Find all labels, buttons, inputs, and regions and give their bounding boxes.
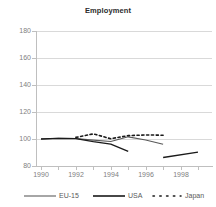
- x-tick-label-1998: 1998: [166, 170, 196, 179]
- x-tick-1997: [163, 167, 164, 170]
- y-tick-label-100: 100: [1, 135, 31, 143]
- legend-item-usa[interactable]: USA: [93, 190, 142, 202]
- series-line-japan: [76, 134, 163, 139]
- y-tick-label-140: 140: [1, 81, 31, 89]
- x-tick-1999: [198, 167, 199, 170]
- x-axis-line: [36, 166, 213, 167]
- legend-swatch-usa: [93, 191, 125, 201]
- series-layer: [36, 31, 212, 166]
- legend-item-eu-15[interactable]: EU-15: [24, 190, 79, 202]
- employment-line-chart: Employment 180 160 140 120 100 80 1990 1…: [0, 0, 216, 207]
- y-tick-label-120: 120: [1, 108, 31, 116]
- legend-swatch-japan: [152, 191, 182, 201]
- chart-legend: EU-15 USA Japan: [0, 190, 216, 204]
- y-tick-label-160: 160: [1, 54, 31, 62]
- series-line-segment-tail: [163, 152, 198, 157]
- x-tick-1995: [128, 167, 129, 170]
- chart-title: Employment: [0, 6, 216, 15]
- x-tick-label-1994: 1994: [96, 170, 126, 179]
- x-tick-label-1996: 1996: [131, 170, 161, 179]
- legend-label-eu-15: EU-15: [59, 191, 79, 201]
- legend-label-japan: Japan: [185, 191, 204, 201]
- legend-swatch-eu-15: [24, 191, 56, 201]
- x-tick-1993: [93, 167, 94, 170]
- y-tick-label-180: 180: [1, 27, 31, 35]
- legend-label-usa: USA: [128, 191, 142, 201]
- legend-item-japan[interactable]: Japan: [152, 190, 204, 202]
- x-tick-label-1990: 1990: [26, 170, 56, 179]
- y-tick-80: [32, 166, 36, 167]
- x-tick-1991: [58, 167, 59, 170]
- y-tick-label-80: 80: [1, 162, 31, 170]
- x-tick-label-1992: 1992: [61, 170, 91, 179]
